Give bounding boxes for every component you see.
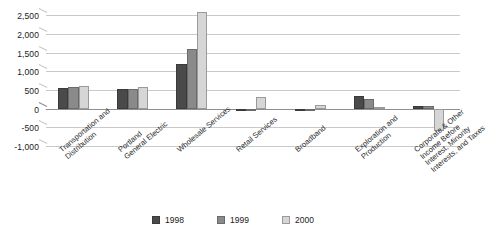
legend-swatch-icon <box>217 216 225 224</box>
legend-item[interactable]: 1998 <box>152 215 184 225</box>
bar[interactable] <box>187 49 197 109</box>
bar[interactable] <box>364 99 374 109</box>
legend-label: 1998 <box>165 215 184 225</box>
bar[interactable] <box>354 96 364 109</box>
bar[interactable] <box>315 105 325 109</box>
bar[interactable] <box>246 109 256 111</box>
bar[interactable] <box>117 89 127 109</box>
bar[interactable] <box>423 106 433 108</box>
bar[interactable] <box>176 64 186 109</box>
bar[interactable] <box>236 109 246 111</box>
legend-swatch-icon <box>282 216 290 224</box>
bar[interactable] <box>128 89 138 108</box>
legend-item[interactable]: 2000 <box>282 215 314 225</box>
y-axis-tick-label: 1,500 <box>17 49 39 59</box>
bar[interactable] <box>305 109 315 111</box>
bar[interactable] <box>256 97 266 109</box>
bar[interactable] <box>197 12 207 109</box>
gridline: -1,000 <box>46 146 460 147</box>
y-axis-tick-label: -1,000 <box>14 142 39 152</box>
bar[interactable] <box>58 88 68 108</box>
x-axis-labels: Transportation and DistributionPortland … <box>46 148 460 210</box>
chart-legend: 199819992000 <box>0 215 466 225</box>
bar[interactable] <box>79 86 89 109</box>
y-axis-tick-label: -500 <box>22 123 39 133</box>
bar[interactable] <box>374 107 384 109</box>
y-axis-tick-label: 0 <box>34 105 39 115</box>
bar[interactable] <box>295 109 305 111</box>
y-axis-tick-label: 1,000 <box>17 67 39 77</box>
y-axis-tick-label: 500 <box>25 86 39 96</box>
bar[interactable] <box>413 106 423 109</box>
y-axis-tick-label: 2,000 <box>17 30 39 40</box>
legend-label: 1999 <box>230 215 249 225</box>
legend-swatch-icon <box>152 216 160 224</box>
legend-item[interactable]: 1999 <box>217 215 249 225</box>
bar[interactable] <box>68 87 78 109</box>
legend-label: 2000 <box>295 215 314 225</box>
bar[interactable] <box>138 87 148 109</box>
y-axis-tick-label: 2,500 <box>17 11 39 21</box>
